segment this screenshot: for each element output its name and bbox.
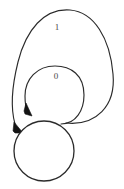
transition-label-zero: 0: [54, 71, 59, 81]
transition-label-one: 1: [55, 22, 60, 32]
state-diagram: 1 0: [0, 0, 124, 189]
automaton-canvas: 1 0: [0, 0, 124, 189]
state-node-q0[interactable]: [14, 121, 74, 181]
